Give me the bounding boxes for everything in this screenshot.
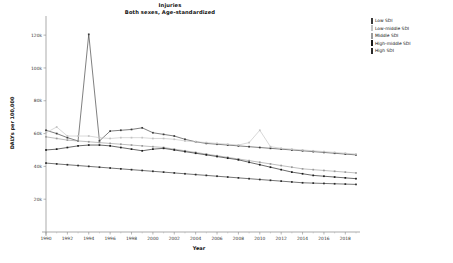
series-marker (302, 173, 304, 175)
series-marker (152, 132, 154, 134)
x-tick-label: 1990 (40, 236, 51, 241)
series-marker (109, 145, 111, 147)
series-marker (67, 139, 69, 141)
series-marker (120, 129, 122, 131)
x-tick-label: 1998 (126, 236, 137, 241)
series-marker (131, 129, 133, 131)
x-tick-label: 1994 (83, 236, 94, 241)
series-marker (99, 140, 101, 142)
series-marker (312, 169, 314, 171)
series-marker (45, 136, 47, 138)
series-marker (270, 147, 272, 149)
series-marker (205, 142, 207, 144)
series-marker (184, 140, 186, 142)
series-marker (238, 159, 240, 161)
y-tick-label: 100k (31, 66, 42, 71)
series-marker (312, 175, 314, 177)
y-tick-label: 80k (34, 98, 43, 103)
series-marker (173, 172, 175, 174)
legend-label: Low-middle SDI (375, 25, 409, 32)
legend-item-2[interactable]: Middle SDI (371, 32, 411, 39)
series-marker (109, 143, 111, 145)
series-marker (56, 133, 58, 135)
series-marker (56, 148, 58, 150)
series-marker (77, 165, 79, 167)
legend-swatch-icon (371, 25, 373, 31)
series-marker (45, 132, 47, 134)
series-marker (109, 167, 111, 169)
series-marker (280, 165, 282, 167)
x-tick-label: 2002 (169, 236, 180, 241)
x-tick-label: 2016 (318, 236, 329, 241)
legend-item-3[interactable]: High-middle SDI (371, 40, 411, 47)
series-marker (291, 181, 293, 183)
series-marker (323, 183, 325, 185)
series-marker (238, 177, 240, 179)
series-marker (152, 148, 154, 150)
series-marker (152, 170, 154, 172)
series-marker (184, 151, 186, 153)
series-marker (67, 137, 69, 139)
series-marker (45, 149, 47, 151)
series-marker (99, 142, 101, 144)
legend-label: Low SDI (375, 17, 393, 24)
series-marker (131, 144, 133, 146)
series-marker (173, 149, 175, 151)
legend-label: High SDI (375, 47, 394, 54)
y-tick-label: 120k (31, 33, 42, 38)
series-marker (131, 137, 133, 139)
legend-item-0[interactable]: Low SDI (371, 17, 411, 24)
x-tick-label: 2006 (211, 236, 222, 241)
series-marker (77, 135, 79, 137)
series-marker (227, 143, 229, 145)
series-marker (216, 175, 218, 177)
series-marker (45, 129, 47, 131)
series-marker (355, 178, 357, 180)
series-marker (334, 183, 336, 185)
series-marker (152, 146, 154, 148)
series-marker (67, 135, 69, 137)
legend-swatch-icon (371, 40, 373, 46)
x-tick-label: 2012 (276, 236, 287, 241)
series-marker (259, 179, 261, 181)
series-marker (67, 164, 69, 166)
series-marker (120, 137, 122, 139)
series-marker (216, 156, 218, 158)
series-marker (195, 141, 197, 143)
series-marker (227, 157, 229, 159)
series-marker (99, 144, 101, 146)
chart-legend: Low SDILow-middle SDIMiddle SDIHigh-midd… (371, 17, 411, 54)
series-marker (88, 144, 90, 146)
series-marker (270, 146, 272, 148)
legend-item-4[interactable]: High SDI (371, 47, 411, 54)
series-marker (248, 160, 250, 162)
series-marker (291, 148, 293, 150)
y-tick-label: 60k (34, 131, 43, 136)
series-marker (280, 169, 282, 171)
series-marker (344, 171, 346, 173)
x-tick-label: 2010 (254, 236, 265, 241)
legend-swatch-icon (371, 18, 373, 24)
series-marker (270, 179, 272, 181)
series-marker (344, 183, 346, 185)
series-line-1 (46, 127, 356, 154)
legend-swatch-icon (371, 33, 373, 39)
x-tick-label: 2000 (147, 236, 158, 241)
series-marker (259, 164, 261, 166)
series-marker (152, 138, 154, 140)
legend-item-1[interactable]: Low-middle SDI (371, 25, 411, 32)
series-marker (280, 180, 282, 182)
series-marker (163, 171, 165, 173)
series-marker (248, 146, 250, 148)
series-marker (291, 171, 293, 173)
series-marker (173, 138, 175, 140)
series-marker (67, 147, 69, 149)
series-line-3 (46, 145, 356, 179)
series-marker (323, 175, 325, 177)
series-marker (227, 176, 229, 178)
series-marker (99, 137, 101, 139)
series-marker (141, 137, 143, 139)
series-marker (163, 147, 165, 149)
legend-swatch-icon (371, 48, 373, 54)
series-marker (88, 135, 90, 137)
